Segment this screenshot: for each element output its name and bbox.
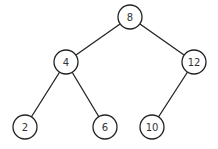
node-2: 2 xyxy=(13,115,37,139)
tree-diagram: 8 4 12 2 6 10 xyxy=(0,0,218,149)
node-4: 4 xyxy=(54,50,78,74)
edges xyxy=(25,17,194,127)
node-10: 10 xyxy=(140,115,164,139)
nodes: 8 4 12 2 6 10 xyxy=(13,5,206,139)
node-label: 2 xyxy=(22,122,28,133)
node-label: 8 xyxy=(127,12,133,23)
node-8: 8 xyxy=(118,5,142,29)
node-6: 6 xyxy=(93,115,117,139)
node-12: 12 xyxy=(182,50,206,74)
node-label: 4 xyxy=(63,57,69,68)
node-label: 12 xyxy=(188,57,201,68)
node-label: 6 xyxy=(102,122,108,133)
node-label: 10 xyxy=(146,122,159,133)
